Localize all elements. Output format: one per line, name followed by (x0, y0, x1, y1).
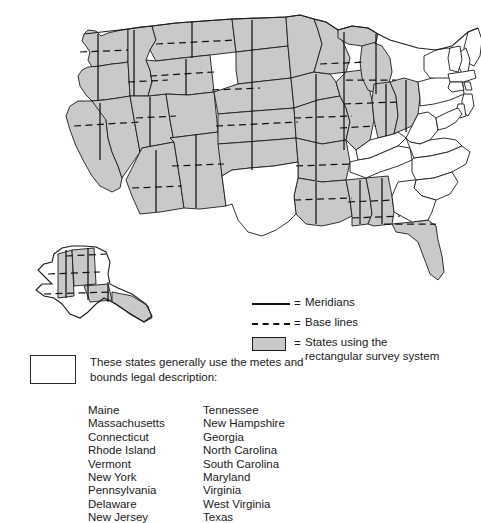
legend-label-meridians: Meridians (305, 296, 355, 310)
metes-bounds-column-right: Tennessee New Hampshire Georgia North Ca… (203, 404, 343, 523)
state-florida (392, 220, 444, 280)
state-texas (222, 162, 298, 236)
legend-equals-base-lines: = (294, 316, 305, 331)
list-item: Texas (203, 511, 343, 523)
list-item: New Hampshire (203, 417, 343, 430)
list-item: South Carolina (203, 458, 343, 471)
state-connecticut (448, 82, 464, 92)
legend-equals-rectangular-survey: = (294, 336, 305, 351)
metes-and-bounds-note: These states generally use the metes and… (30, 353, 460, 385)
list-item: Pennsylvania (88, 484, 203, 497)
list-item: Connecticut (88, 431, 203, 444)
list-item: Delaware (88, 498, 203, 511)
state-rhode-island (464, 82, 472, 90)
metes-and-bounds-state-lists: Maine Massachusetts Connecticut Rhode Is… (88, 404, 343, 523)
legend-entry-meridians: = Meridians (252, 296, 478, 311)
white-swatch-icon (30, 355, 76, 384)
state-montana (150, 19, 236, 61)
state-louisiana (294, 178, 352, 226)
list-item: New Jersey (88, 511, 203, 523)
list-item: Maryland (203, 471, 343, 484)
list-item: Tennessee (203, 404, 343, 417)
list-item: New York (88, 471, 203, 484)
legend-label-base-lines: Base lines (305, 316, 358, 330)
list-item: North Carolina (203, 444, 343, 457)
state-maryland (436, 108, 462, 130)
list-item: Vermont (88, 458, 203, 471)
list-item: Georgia (203, 431, 343, 444)
state-arkansas (296, 138, 350, 182)
list-item: Maine (88, 404, 203, 417)
state-oregon (78, 62, 130, 101)
gray-swatch-icon (252, 336, 294, 351)
list-item: West Virginia (203, 498, 343, 511)
dashed-line-icon (252, 316, 294, 331)
legend-entry-base-lines: = Base lines (252, 316, 478, 331)
us-survey-system-figure: = Meridians = Base lines = States using … (0, 0, 481, 523)
state-alabama (366, 176, 394, 226)
alaska-shaded-band-east (72, 248, 96, 286)
list-item: Massachusetts (88, 417, 203, 430)
metes-bounds-column-left: Maine Massachusetts Connecticut Rhode Is… (88, 404, 203, 523)
metes-and-bounds-description: These states generally use the metes and… (90, 353, 304, 385)
solid-line-icon (252, 296, 294, 311)
state-south-dakota (236, 46, 291, 84)
list-item: Rhode Island (88, 444, 203, 457)
legend-equals-meridians: = (294, 296, 305, 311)
state-washington (82, 29, 128, 67)
alaska-aleutian-tail (112, 292, 152, 322)
list-item: Virginia (203, 484, 343, 497)
